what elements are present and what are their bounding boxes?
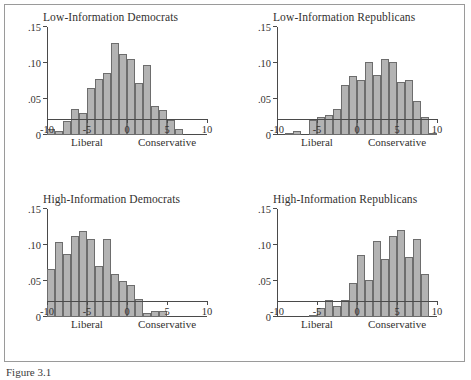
x-axis-tick [47, 119, 48, 123]
y-axis-tick [273, 134, 277, 135]
y-axis-tick-label: 0 [266, 130, 271, 141]
x-axis-tick-label: -5 [313, 124, 322, 135]
x-axis-tick-label: 5 [164, 306, 169, 317]
x-axis-tick [397, 301, 398, 305]
x-axis-tick [167, 301, 168, 305]
x-axis-tick [87, 301, 88, 305]
panel-low-information-democrats: Low-Information Democrats -10-50510Liber… [15, 11, 240, 187]
x-axis-tick-label: 0 [354, 124, 359, 135]
x-axis-direction-label-conservative: Conservative [368, 136, 426, 148]
x-axis-tick-label: 10 [432, 124, 443, 135]
x-axis-tick [277, 301, 278, 305]
y-axis-tick-label: .10 [28, 240, 41, 251]
x-axis-direction-label-liberal: Liberal [71, 136, 103, 148]
panel-high-information-republicans: High-Information Republicans -10-50510Li… [245, 193, 470, 369]
y-axis-tick [43, 316, 47, 317]
figure-frame: Low-Information Democrats -10-50510Liber… [4, 4, 465, 362]
x-axis-zone: -10-50510LiberalConservative [47, 301, 207, 331]
panel-title: High-Information Republicans [273, 193, 417, 205]
y-axis-tick [273, 26, 277, 27]
x-axis-tick-label: 5 [164, 124, 169, 135]
plot-area: -10-50510LiberalConservative .15.10.050 [277, 27, 437, 135]
x-axis-tick-label: 10 [202, 306, 213, 317]
y-axis-tick [43, 280, 47, 281]
y-axis-tick-label: .15 [258, 204, 271, 215]
y-axis-tick [43, 62, 47, 63]
panel-high-information-democrats: High-Information Democrats -10-50510Libe… [15, 193, 240, 369]
y-axis-tick-label: .05 [28, 94, 41, 105]
y-axis-tick-label: .15 [28, 22, 41, 33]
x-axis-tick-label: 0 [354, 306, 359, 317]
y-axis-tick-label: .10 [258, 240, 271, 251]
x-axis-tick [87, 119, 88, 123]
x-axis-direction-label-liberal: Liberal [301, 136, 333, 148]
x-axis-tick [207, 301, 208, 305]
y-axis-tick-label: .05 [258, 276, 271, 287]
x-axis-tick-label: 5 [394, 124, 399, 135]
x-axis-tick-label: 0 [124, 124, 129, 135]
x-axis-tick [317, 119, 318, 123]
x-axis-tick-label: -5 [83, 124, 92, 135]
y-axis-tick-label: .10 [28, 58, 41, 69]
x-axis-tick [207, 119, 208, 123]
y-axis-tick [43, 26, 47, 27]
y-axis-tick [273, 244, 277, 245]
y-axis-tick [273, 316, 277, 317]
panel-title: Low-Information Democrats [43, 11, 178, 23]
plot-area: -10-50510LiberalConservative .15.10.050 [277, 209, 437, 317]
x-axis-tick [357, 119, 358, 123]
y-axis-tick [43, 134, 47, 135]
x-axis-direction-label-liberal: Liberal [301, 318, 333, 330]
y-axis-tick-label: 0 [36, 130, 41, 141]
panel-grid: Low-Information Democrats -10-50510Liber… [5, 5, 464, 361]
y-axis-tick-label: 0 [266, 312, 271, 323]
y-axis-tick-label: 0 [36, 312, 41, 323]
panel-title: High-Information Democrats [43, 193, 180, 205]
y-axis-tick-label: .15 [258, 22, 271, 33]
x-axis-tick-label: -5 [313, 306, 322, 317]
y-axis-tick-label: .10 [258, 58, 271, 69]
x-axis-tick-label: 0 [124, 306, 129, 317]
y-axis-tick-label: .05 [28, 276, 41, 287]
figure-caption: Figure 3.1 [6, 366, 466, 378]
y-axis-tick [43, 208, 47, 209]
x-axis-tick-label: 10 [202, 124, 213, 135]
x-axis-tick [277, 119, 278, 123]
y-axis-tick [273, 208, 277, 209]
x-axis-tick [437, 119, 438, 123]
y-axis-tick [273, 280, 277, 281]
plot-area: -10-50510LiberalConservative .15.10.050 [47, 27, 207, 135]
x-axis-zone: -10-50510LiberalConservative [277, 119, 437, 149]
x-axis-zone: -10-50510LiberalConservative [47, 119, 207, 149]
x-axis-tick [47, 301, 48, 305]
x-axis-tick [357, 301, 358, 305]
x-axis-tick [127, 301, 128, 305]
x-axis-direction-label-conservative: Conservative [138, 136, 196, 148]
x-axis-tick-label: 5 [394, 306, 399, 317]
y-axis-tick [273, 62, 277, 63]
x-axis-tick-label: 10 [432, 306, 443, 317]
plot-area: -10-50510LiberalConservative .15.10.050 [47, 209, 207, 317]
y-axis-tick-label: .15 [28, 204, 41, 215]
panel-title: Low-Information Republicans [273, 11, 415, 23]
y-axis-tick [43, 98, 47, 99]
x-axis-tick [127, 119, 128, 123]
x-axis-tick [167, 119, 168, 123]
x-axis-tick [437, 301, 438, 305]
panel-low-information-republicans: Low-Information Republicans -10-50510Lib… [245, 11, 470, 187]
x-axis-direction-label-conservative: Conservative [368, 318, 426, 330]
x-axis-direction-label-conservative: Conservative [138, 318, 196, 330]
x-axis-zone: -10-50510LiberalConservative [277, 301, 437, 331]
y-axis-tick [43, 244, 47, 245]
x-axis-tick [397, 119, 398, 123]
x-axis-tick [317, 301, 318, 305]
y-axis-tick-label: .05 [258, 94, 271, 105]
x-axis-direction-label-liberal: Liberal [71, 318, 103, 330]
y-axis-tick [273, 98, 277, 99]
x-axis-tick-label: -5 [83, 306, 92, 317]
